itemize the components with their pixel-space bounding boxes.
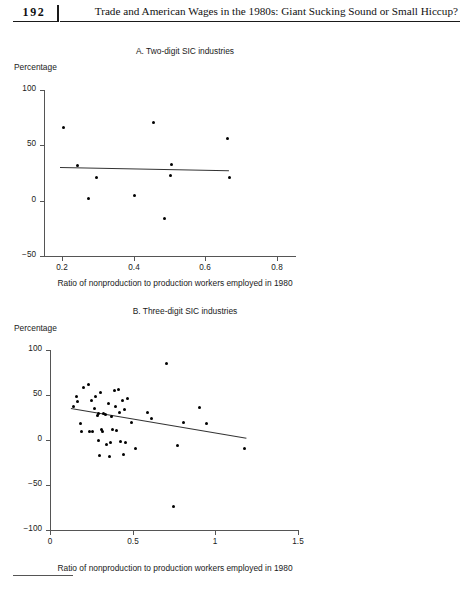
plotB-y-tick [46,350,51,351]
data-point [119,440,122,443]
data-point [76,164,79,167]
plotA-x-tick [205,256,206,261]
data-point [123,408,126,411]
plotA-y-tick [40,145,45,146]
panel-b-plot-area: −100−5005010000.511.5 [0,306,467,586]
data-point [107,402,110,405]
plotB-y-tick [46,485,51,486]
plotB-x-tick [215,530,216,535]
data-point [124,441,127,444]
data-point [126,397,129,400]
plotB-y-tick-label: −100 [2,524,42,533]
data-point [87,383,90,386]
data-point [91,430,94,433]
running-head-title: Trade and American Wages in the 1980s: G… [60,4,460,22]
page-number: 192 [13,5,55,20]
folio-box: 192 [13,5,59,22]
panel-b-x-axis-title: Ratio of nonproduction to production wor… [20,563,330,573]
data-point [117,388,120,391]
data-point [108,455,111,458]
figure-panel-a: A. Two-digit SIC industries Percentage −… [0,46,467,296]
data-point [198,406,201,409]
plotB-x-tick-label: 0 [30,537,70,546]
plotA-regression-line [60,167,229,171]
plotB-x-tick-label: 1 [195,537,235,546]
data-point [110,415,113,418]
plotA-x-tick-label: 0.8 [257,263,297,272]
data-point [113,389,116,392]
data-point [80,430,83,433]
data-point [104,413,107,416]
plotB-y-tick-label: 50 [2,389,42,398]
data-point [226,137,229,140]
data-point [121,399,124,402]
data-point [122,453,125,456]
plotA-x-tick-label: 0.6 [185,263,225,272]
data-point [109,441,112,444]
footnote-rule [13,575,73,576]
data-point [111,428,114,431]
plotB-y-tick-label: 100 [2,344,42,353]
plotA-y-tick [40,90,45,91]
plotA-y-tick-label: 50 [0,139,36,148]
plotA-x-tick-label: 0.4 [114,263,154,272]
plotA-x-tick [277,256,278,261]
plotA-y-tick-label: 0 [0,195,36,204]
figure-panel-b: B. Three-digit SIC industries Percentage… [0,306,467,586]
plotB-y-tick [46,440,51,441]
data-point [79,422,82,425]
data-point [114,405,117,408]
data-point [243,447,246,450]
plotA-y-tick [40,201,45,202]
data-point [97,412,100,415]
data-point [90,399,93,402]
plotB-x-axis-line [50,530,299,531]
data-point [118,411,121,414]
data-point [169,174,172,177]
data-point [170,163,173,166]
plotB-y-tick [46,395,51,396]
data-point [95,176,98,179]
panel-a-plot-area: −500501000.20.40.60.8 [0,46,467,296]
plotB-y-tick-label: 0 [2,434,42,443]
data-point [130,421,133,424]
data-point [165,362,168,365]
plotB-x-tick-label: 0.5 [113,537,153,546]
plotA-y-axis-line [44,90,45,256]
data-point [176,444,179,447]
data-point [163,217,166,220]
data-point [97,439,100,442]
data-point [172,505,175,508]
data-point [182,421,185,424]
plotA-y-tick-label: −50 [0,250,36,259]
data-point [150,417,153,420]
data-point [99,391,102,394]
plotA-x-axis-line [44,256,296,257]
data-point [75,395,78,398]
data-point [228,176,231,179]
plotA-y-tick [40,256,45,257]
data-point [62,126,65,129]
data-point [76,400,79,403]
panel-a-x-axis-title: Ratio of nonproduction to production wor… [20,278,330,288]
plotA-x-tick [62,256,63,261]
plotB-x-tick [298,530,299,535]
data-point [105,443,108,446]
data-point [82,386,85,389]
running-head: 192 Trade and American Wages in the 1980… [0,0,467,26]
plotB-x-tick [133,530,134,535]
data-point [93,407,96,410]
plotB-x-tick-label: 1.5 [278,537,318,546]
data-point [101,430,104,433]
data-point [98,454,101,457]
plotA-x-tick-label: 0.2 [42,263,82,272]
data-point [134,447,137,450]
data-point [133,194,136,197]
plotB-y-tick-label: −50 [2,479,42,488]
data-point [152,121,155,124]
plotA-y-tick-label: 100 [0,84,36,93]
plotA-x-tick [134,256,135,261]
plotB-x-tick [50,530,51,535]
data-point [87,197,90,200]
data-point [94,395,97,398]
